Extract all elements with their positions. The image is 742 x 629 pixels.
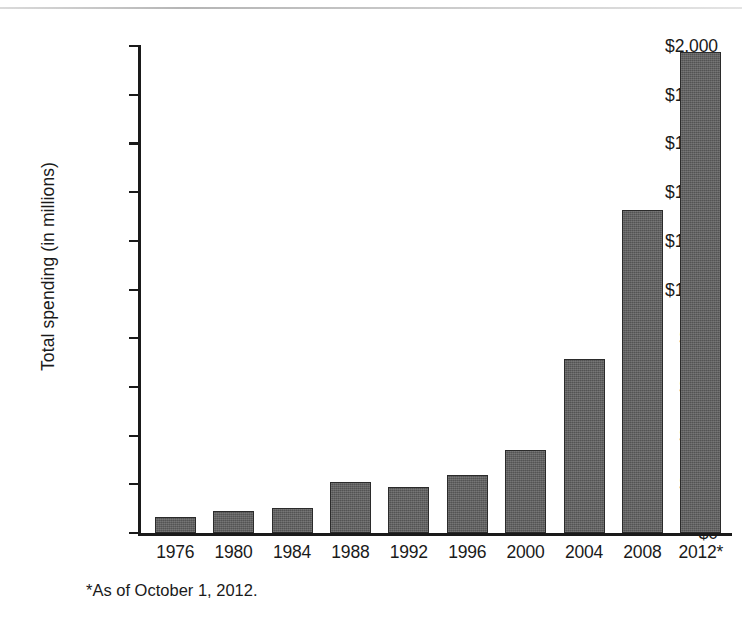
footnote: *As of October 1, 2012. [86, 581, 258, 600]
y-axis-tick [129, 289, 138, 291]
y-axis-tick [129, 191, 138, 193]
y-axis-tick [129, 240, 138, 242]
bar [330, 482, 371, 533]
bar [272, 508, 313, 533]
bar [155, 517, 196, 533]
y-axis-title: Total spending (in millions) [26, 0, 70, 533]
x-axis-tick-label: 2000 [496, 542, 554, 563]
x-axis-line [138, 533, 732, 536]
x-axis-tick-label: 1984 [263, 542, 321, 563]
x-axis-tick-label: 1980 [204, 542, 262, 563]
y-axis-tick [129, 94, 138, 96]
bar-chart-figure: Total spending (in millions) $0$200$400$… [0, 0, 742, 629]
x-axis-tick-label: 2012* [672, 542, 730, 563]
y-axis-tick [129, 142, 138, 144]
y-axis-line [138, 45, 141, 534]
y-axis-tick [129, 435, 138, 437]
x-axis-tick-label: 1988 [321, 542, 379, 563]
bar [213, 511, 254, 533]
bar [505, 450, 546, 533]
y-axis-tick [129, 532, 138, 534]
x-axis-tick-label: 1996 [438, 542, 496, 563]
x-axis-tick-label: 1992 [380, 542, 438, 563]
y-axis-tick [129, 45, 138, 47]
x-axis-tick-label: 2008 [613, 542, 671, 563]
x-axis-tick-label: 2004 [555, 542, 613, 563]
x-axis-tick-label: 1976 [146, 542, 204, 563]
bar [447, 475, 488, 533]
y-axis-tick [129, 386, 138, 388]
bar [388, 487, 429, 533]
plot-area: $0$200$400$600$800$1,000$1,200$1,400$1,6… [138, 46, 732, 533]
y-axis-tick [129, 337, 138, 339]
bar [564, 359, 605, 533]
bar [622, 210, 663, 533]
bar [680, 52, 721, 533]
y-axis-tick [129, 483, 138, 485]
